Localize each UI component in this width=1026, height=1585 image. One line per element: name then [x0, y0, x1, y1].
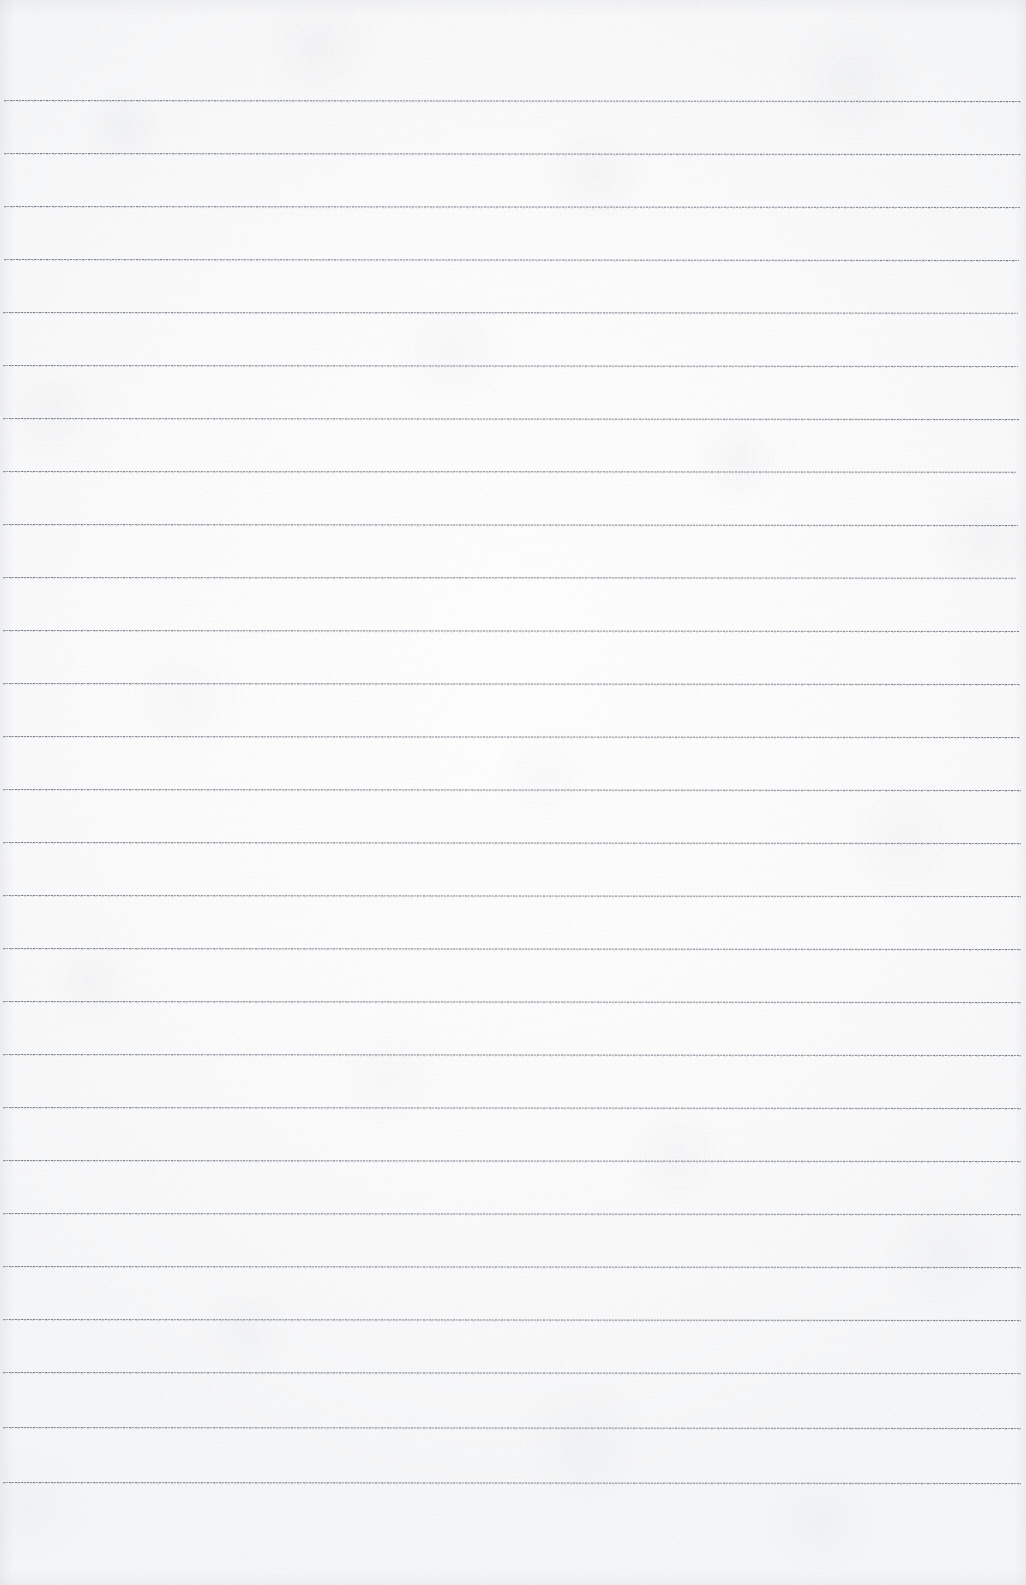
ruled-line — [3, 1372, 1021, 1374]
ruled-line — [3, 1319, 1021, 1321]
ruled-line — [3, 1107, 1021, 1109]
ruled-line — [4, 206, 1020, 208]
ruled-line — [3, 1213, 1021, 1215]
ruled-line — [3, 789, 1021, 791]
ruled-line — [3, 1054, 1021, 1056]
ruled-line — [3, 1266, 1021, 1268]
ruled-line — [3, 736, 1020, 738]
ruled-line — [3, 630, 1019, 632]
ruled-line — [3, 842, 1021, 844]
ruled-line — [3, 471, 1017, 473]
ruled-lines-layer — [0, 0, 1026, 1585]
ruled-line — [3, 1001, 1021, 1003]
ruled-line — [3, 577, 1016, 579]
ruled-line — [4, 153, 1021, 155]
ruled-line — [3, 948, 1021, 950]
ruled-line — [3, 895, 1021, 897]
ruled-line — [3, 683, 1020, 685]
ruled-line — [3, 1160, 1021, 1162]
ruled-line — [3, 524, 1018, 526]
ruled-line — [3, 312, 1018, 314]
ruled-line — [3, 418, 1019, 420]
ruled-line — [3, 365, 1018, 367]
ruled-line — [4, 259, 1019, 261]
ruled-line — [3, 1427, 1021, 1429]
ruled-line — [4, 100, 1021, 102]
ruled-line — [3, 1482, 1021, 1484]
notebook-page — [0, 0, 1026, 1585]
